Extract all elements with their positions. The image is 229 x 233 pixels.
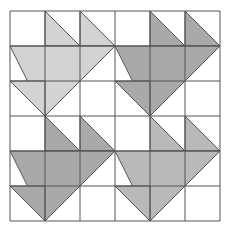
small-triangle-bottom-left — [10, 186, 45, 221]
block-bottom-right — [115, 116, 220, 221]
small-triangle-top-right — [185, 116, 220, 151]
small-triangle-top-middle — [150, 116, 185, 151]
small-triangle-top-middle — [150, 11, 185, 46]
small-triangle-top-right — [80, 116, 115, 151]
small-triangle-top-right — [185, 11, 220, 46]
small-triangle-bottom-left — [10, 81, 45, 116]
small-triangle-bottom-left — [115, 186, 150, 221]
block-bottom-left — [10, 116, 115, 221]
block-top-right — [115, 11, 220, 116]
block-top-left — [10, 11, 115, 116]
small-triangle-bottom-left — [115, 81, 150, 116]
quilt-diagram — [0, 0, 229, 233]
small-triangle-top-right — [80, 11, 115, 46]
small-triangle-top-middle — [45, 11, 80, 46]
small-triangle-top-middle — [45, 116, 80, 151]
